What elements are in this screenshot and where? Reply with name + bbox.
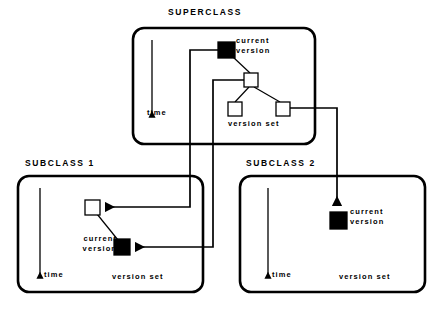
superclass-version-set-label: version set xyxy=(228,119,280,129)
subclass-1-version-set-label: version set xyxy=(112,272,164,282)
version-hierarchy-diagram: SUPERCLASS SUBCLASS 1 SUBCLASS 2 current… xyxy=(0,0,442,309)
subclass-1-current-version-label-line1: current xyxy=(55,234,117,244)
subclass-1-version-node[interactable] xyxy=(85,200,100,215)
diagram-canvas xyxy=(0,0,442,309)
subclass-1-time-label: time xyxy=(44,270,64,280)
superclass-current-version-label: current version xyxy=(236,36,270,55)
subclass-1-current-version-label-line2: version xyxy=(55,244,117,254)
superclass-title: SUPERCLASS xyxy=(168,7,242,17)
subclass-2-time-label: time xyxy=(272,270,292,280)
tree-edge-mid-leafright xyxy=(254,87,280,102)
subclass-1-current-version-label: current version xyxy=(55,234,117,253)
superclass-version-node-mid[interactable] xyxy=(244,73,258,87)
tree-edge-root-mid xyxy=(233,57,250,73)
subclass-2-version-set-label: version set xyxy=(339,272,391,282)
subclass-2-title: SUBCLASS 2 xyxy=(246,158,316,168)
connector-superclass-version-to-subclass2-current xyxy=(290,108,337,205)
superclass-current-version-label-line1: current xyxy=(236,36,270,46)
superclass-current-version-label-line2: version xyxy=(236,46,270,56)
superclass-time-label: time xyxy=(147,108,167,118)
superclass-version-node-leaf-right[interactable] xyxy=(276,102,290,116)
subclass-2-current-version-label: current version xyxy=(350,207,384,226)
subclass-1-title: SUBCLASS 1 xyxy=(25,158,95,168)
superclass-current-version-node[interactable] xyxy=(218,42,235,58)
superclass-version-node-leaf-left[interactable] xyxy=(228,102,242,116)
tree-edge-mid-leafleft xyxy=(235,87,249,102)
subclass-2-current-version-label-line1: current xyxy=(350,207,384,217)
subclass-2-current-version-node[interactable] xyxy=(330,212,347,229)
subclass-2-current-version-label-line2: version xyxy=(350,217,384,227)
